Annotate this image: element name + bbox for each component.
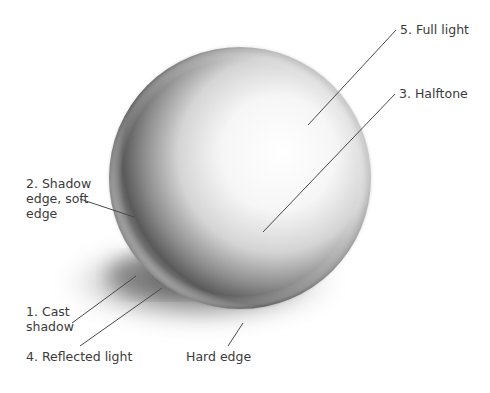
label-shadow-edge: 2. Shadow edge, soft edge bbox=[26, 176, 91, 221]
label-halftone: 3. Halftone bbox=[399, 86, 468, 101]
label-cast-shadow: 1. Cast shadow bbox=[26, 304, 74, 334]
sphere bbox=[109, 47, 371, 309]
label-hard-edge: Hard edge bbox=[186, 349, 251, 364]
label-reflected-light: 4. Reflected light bbox=[26, 349, 132, 364]
label-full-light: 5. Full light bbox=[400, 22, 469, 37]
sphere-shading-diagram: 5. Full light 3. Halftone 2. Shadow edge… bbox=[0, 0, 490, 393]
